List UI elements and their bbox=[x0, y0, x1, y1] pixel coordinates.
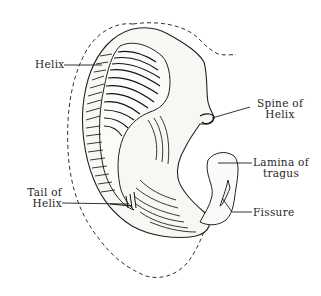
label-lamina-of-tragus-line2: tragus bbox=[252, 168, 310, 179]
ear-cartilage-illustration bbox=[0, 0, 321, 296]
label-fissure: Fissure bbox=[253, 207, 295, 218]
leader-spine-of-helix bbox=[212, 107, 250, 118]
label-tail-of-helix-line2: Helix bbox=[18, 198, 62, 209]
ear-cartilage-diagram: Helix Spine of Helix Lamina of tragus Ta… bbox=[0, 0, 321, 296]
label-spine-of-helix-line2: Helix bbox=[250, 109, 310, 120]
label-tail-of-helix: Tail of Helix bbox=[18, 187, 62, 209]
label-spine-of-helix: Spine of Helix bbox=[250, 98, 310, 120]
label-lamina-of-tragus: Lamina of tragus bbox=[252, 157, 310, 179]
label-helix: Helix bbox=[35, 59, 65, 70]
